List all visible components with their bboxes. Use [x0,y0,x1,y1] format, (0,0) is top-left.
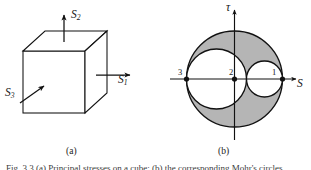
cube-front-face [23,51,85,113]
mohr-point-label-2: 2 [229,68,233,77]
cube-label-s2: S2 [71,9,81,21]
cube-label-s1: S1 [118,74,128,86]
mohr-point-3 [184,76,189,81]
cube-label-s1-sub: 1 [124,78,128,87]
panel-sublabel-a: (a) [66,147,77,157]
cube-label-s3: S3 [5,87,15,99]
mohr-point-1 [280,76,285,81]
figure-caption: Fig. 3.3 (a) Principal stresses on a cub… [6,163,306,170]
mohr-point-2 [232,76,237,81]
panel-sublabel-b: (b) [218,147,229,157]
mohr-point-label-3: 3 [178,68,182,77]
figure-canvas [0,0,311,170]
cube-label-s3-sub: 3 [11,91,15,100]
cube-label-s2-sub: 2 [77,13,81,22]
figure-root: S2 S1 S3 τ S 3 2 1 (a) (b) Fig. 3.3 (a) … [0,0,311,170]
mohr-axis-label-s: S [297,78,303,90]
stress-cube-group [20,15,130,113]
mohr-point-label-1: 1 [272,68,276,77]
mohr-axis-label-tau: τ [226,2,230,14]
